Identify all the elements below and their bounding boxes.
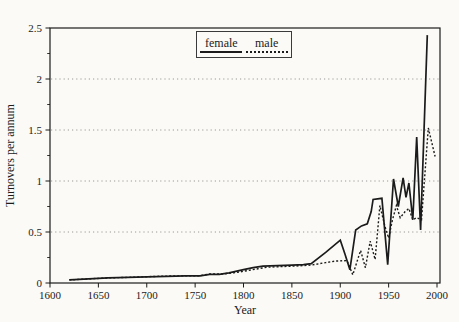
legend: female male — [196, 31, 292, 58]
legend-label-male: male — [255, 37, 278, 49]
series-line-female — [69, 35, 427, 280]
y-tick-label: 0.5 — [28, 226, 42, 238]
y-axis-title: Turnovers per annum — [3, 103, 17, 207]
x-tick-label: 1600 — [39, 289, 62, 301]
legend-line-sample-male — [246, 51, 288, 53]
x-tick-label: 1700 — [136, 289, 159, 301]
y-tick-label: 2.5 — [28, 22, 42, 34]
x-tick-label: 1750 — [184, 289, 207, 301]
chart-figure: 16001650170017501800185019001950200000.5… — [0, 0, 459, 322]
legend-label-female: female — [205, 37, 238, 49]
x-tick-label: 1650 — [87, 289, 110, 301]
legend-item-female: female — [200, 37, 242, 53]
x-tick-label: 1900 — [329, 289, 352, 301]
y-tick-label: 0 — [37, 277, 43, 289]
chart-frame — [50, 28, 440, 283]
series-line-male — [69, 128, 435, 280]
y-tick-label: 2 — [37, 73, 43, 85]
legend-item-male: male — [246, 37, 288, 53]
x-tick-label: 2000 — [426, 289, 449, 301]
x-axis-title: Year — [234, 303, 256, 317]
y-tick-label: 1 — [37, 175, 43, 187]
x-tick-label: 1950 — [378, 289, 401, 301]
x-tick-label: 1850 — [281, 289, 304, 301]
legend-line-sample-female — [200, 51, 242, 53]
y-tick-label: 1.5 — [28, 124, 42, 136]
x-tick-label: 1800 — [233, 289, 256, 301]
